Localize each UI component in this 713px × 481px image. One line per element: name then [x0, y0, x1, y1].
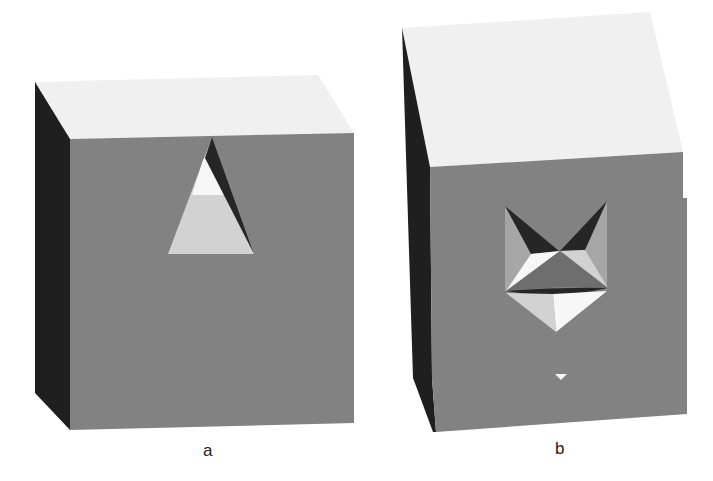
cube-b-top-face — [402, 12, 683, 167]
cube-a — [35, 75, 354, 430]
cube-a-left-face — [35, 82, 70, 430]
panel-label-b: b — [555, 440, 564, 457]
cube-a-top-face — [35, 75, 354, 139]
cube-b — [402, 12, 687, 432]
figure-canvas — [0, 0, 713, 481]
panel-label-a: a — [203, 442, 212, 459]
